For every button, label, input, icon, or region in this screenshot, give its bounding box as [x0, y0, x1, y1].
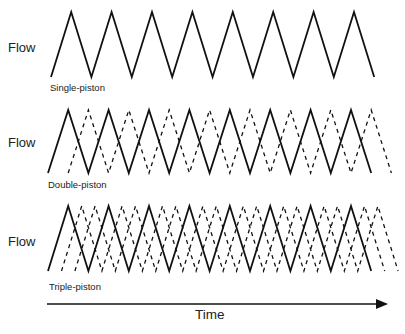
flow-label-double: Flow [8, 136, 35, 149]
double-piston-wave-solid [48, 110, 371, 173]
waveforms [48, 12, 398, 271]
caption-triple-piston: Triple-piston [49, 282, 101, 292]
flow-label-triple: Flow [8, 235, 35, 248]
arrowhead-icon [376, 299, 388, 309]
triple-piston-wave-solid [48, 206, 371, 271]
triple-piston-wave-dashed-2 [75, 206, 398, 271]
time-axis-label: Time [195, 308, 225, 322]
caption-double-piston: Double-piston [48, 180, 107, 190]
flow-label-single: Flow [8, 41, 35, 54]
double-piston-wave-dashed-1 [68, 110, 391, 173]
caption-single-piston: Single-piston [50, 83, 105, 93]
triple-piston-wave-dashed-1 [62, 206, 385, 271]
single-piston-wave-solid [51, 12, 374, 77]
